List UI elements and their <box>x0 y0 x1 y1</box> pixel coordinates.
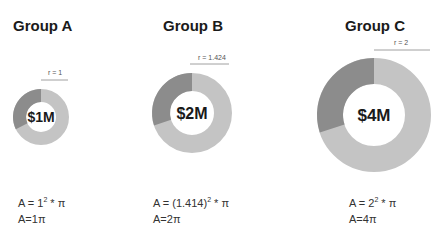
group-a-formula-line2: A=1π <box>18 211 65 227</box>
group-a-center-label: $1M <box>27 109 54 125</box>
group-a-donut: $1M <box>13 80 68 139</box>
group-b-formula-line1: A = (1.414)2 * π <box>153 192 229 211</box>
group-b-formula-suffix: * π <box>211 197 229 209</box>
group-c-formula-suffix: * π <box>378 197 396 209</box>
group-a-formula: A = 12 * π A=1π <box>18 192 65 227</box>
group-c-formula: A = 22 * π A=4π <box>349 192 396 227</box>
group-b-formula: A = (1.414)2 * π A=2π <box>153 192 229 227</box>
group-c-formula-line2: A=4π <box>349 211 396 227</box>
group-c-formula-base: A = 2 <box>349 197 374 209</box>
group-b-center-label: $2M <box>176 105 207 122</box>
group-a-formula-line1: A = 12 * π <box>18 192 65 211</box>
group-a-formula-suffix: * π <box>47 197 65 209</box>
group-a-formula-base: A = 1 <box>18 197 43 209</box>
group-b-formula-line2: A=2π <box>153 211 229 227</box>
group-c-center-label: $4M <box>357 106 390 125</box>
group-b-formula-base: A = (1.414) <box>153 197 207 209</box>
group-b-donut: $2M <box>152 64 229 144</box>
group-c-formula-line1: A = 22 * π <box>349 192 396 211</box>
group-c-donut: $4M <box>317 50 430 159</box>
